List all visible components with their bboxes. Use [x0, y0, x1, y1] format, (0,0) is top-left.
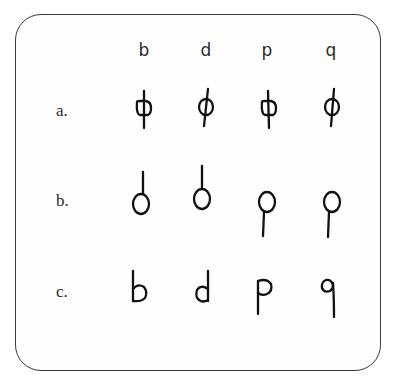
row-c-letter-q: [318, 277, 348, 327]
row-c-letter-b: [128, 267, 158, 317]
row-b-p-glyph: [253, 188, 283, 238]
row-a-p-glyph: [255, 90, 285, 130]
row-a-q-glyph: [318, 88, 348, 128]
row-b-q-glyph: [318, 188, 348, 238]
column-header-q: q: [316, 40, 346, 60]
column-header-p: p: [252, 40, 282, 60]
column-header-b: b: [129, 40, 159, 60]
row-label-a: a.: [56, 101, 68, 121]
row-label-c: c.: [56, 282, 68, 302]
row-c-letter-d: [193, 267, 223, 317]
row-b-d-glyph: [191, 163, 221, 213]
row-label-b: b.: [56, 191, 69, 211]
column-header-d: d: [191, 40, 221, 60]
row-a-b-glyph: [130, 90, 160, 130]
row-c-letter-p: [253, 277, 283, 327]
row-b-b-glyph: [129, 168, 159, 218]
row-a-d-glyph: [192, 88, 222, 128]
